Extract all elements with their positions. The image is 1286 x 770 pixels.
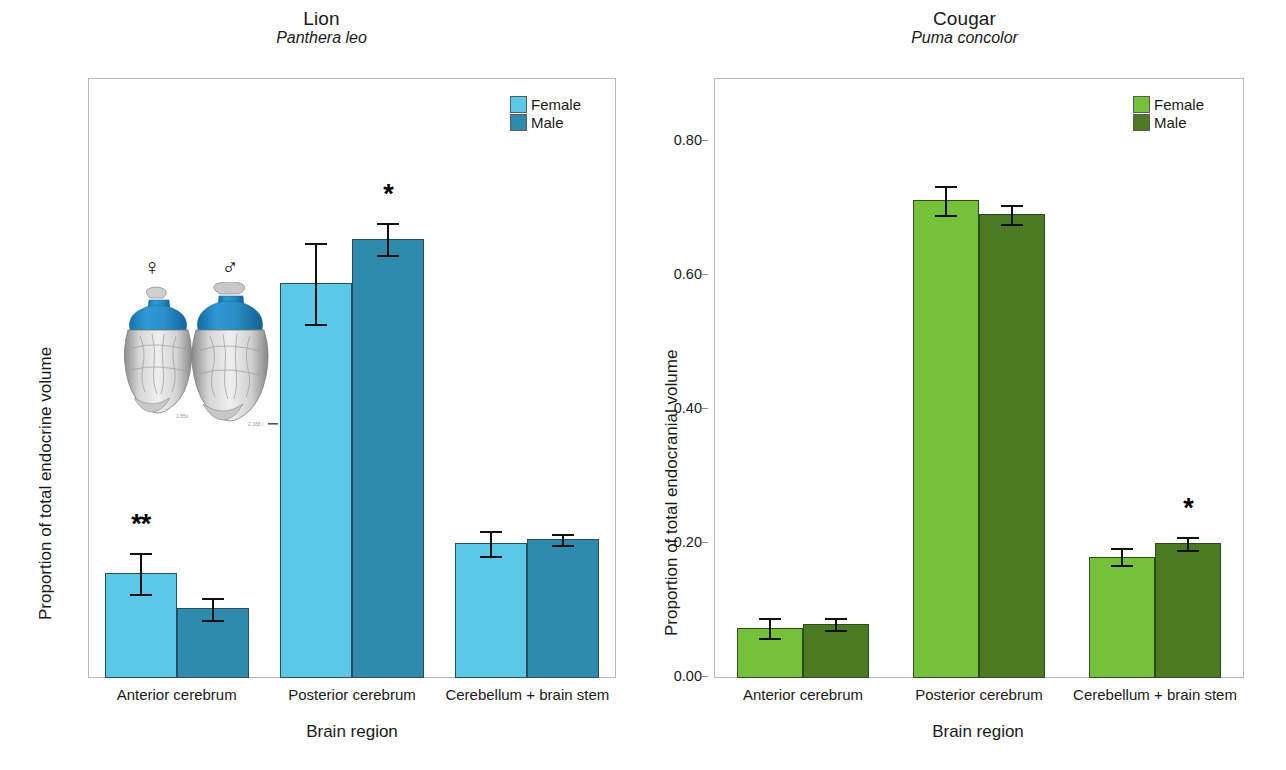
cougar-legend-item-female[interactable]: Female	[1133, 96, 1204, 113]
error-bar-stem	[387, 223, 389, 255]
error-bar-cap	[759, 618, 781, 620]
y-tick-label: 0.20	[650, 534, 702, 550]
cougar-title-common: Cougar	[643, 8, 1286, 29]
male-symbol-icon: ♂	[221, 256, 238, 279]
bar-male-1	[979, 214, 1045, 678]
bar-female-2	[1089, 557, 1155, 678]
error-bar-stem	[945, 186, 947, 215]
error-bar-cap	[305, 243, 327, 245]
significance-marker: *	[383, 181, 393, 208]
legend-swatch-icon	[510, 114, 527, 131]
female-scale-text: 1.85x	[176, 413, 189, 419]
error-bar-cap	[202, 620, 224, 622]
significance-marker: *	[1183, 495, 1193, 522]
male-scale-text: 2.188 /	[248, 421, 264, 427]
error-bar-cap	[1111, 565, 1133, 567]
lion-y-axis-label: Proportion of total endocrine volume	[36, 347, 56, 620]
error-bar-cap	[480, 531, 502, 533]
error-bar-stem	[140, 553, 142, 593]
error-bar-stem	[1011, 205, 1013, 224]
x-tick-label: Anterior cerebrum	[743, 686, 863, 703]
error-bar-cap	[130, 594, 152, 596]
error-bar-cap	[552, 534, 574, 536]
cougar-y-axis-label: Proportion of total endocranial volume	[662, 350, 682, 636]
error-bar-cap	[825, 630, 847, 632]
x-tick-label: Anterior cerebrum	[117, 686, 237, 703]
lion-legend-item-female[interactable]: Female	[510, 96, 581, 113]
error-bar-stem	[212, 598, 214, 621]
lion-x-axis-label: Brain region	[88, 722, 616, 742]
error-bar-cap	[202, 598, 224, 600]
cougar-legend-label-male: Male	[1154, 115, 1187, 130]
lion-title-latin: Panthera leo	[0, 29, 643, 47]
y-tick-mark	[702, 676, 708, 677]
figure-root: Lion Panthera leo Proportion of total en…	[0, 0, 1286, 770]
error-bar-stem	[1121, 548, 1123, 565]
error-bar-cap	[1001, 224, 1023, 226]
significance-marker: **	[131, 511, 150, 538]
y-tick-label: 0.00	[650, 668, 702, 684]
error-bar-cap	[377, 255, 399, 257]
cougar-title-latin: Puma concolor	[643, 29, 1286, 47]
cougar-title-block: Cougar Puma concolor	[643, 8, 1286, 47]
y-tick-label: 0.40	[650, 400, 702, 416]
y-tick-mark	[702, 408, 708, 409]
x-tick-label: Posterior cerebrum	[915, 686, 1043, 703]
error-bar-stem	[1187, 537, 1189, 550]
error-bar-stem	[769, 618, 771, 638]
male-endocast-image: 2.188 /	[190, 282, 380, 450]
error-bar-cap	[935, 186, 957, 188]
error-bar-cap	[480, 556, 502, 558]
y-tick-mark	[702, 140, 708, 141]
error-bar-cap	[825, 618, 847, 620]
cougar-legend-item-male[interactable]: Male	[1133, 114, 1204, 131]
lion-title-block: Lion Panthera leo	[0, 8, 643, 47]
y-tick-label: 0.60	[650, 266, 702, 282]
cougar-legend: Female Male	[1133, 96, 1204, 132]
lion-title-common: Lion	[0, 8, 643, 29]
y-tick-label: 0.80	[650, 132, 702, 148]
error-bar-cap	[1177, 550, 1199, 552]
error-bar-cap	[1111, 548, 1133, 550]
error-bar-cap	[130, 553, 152, 555]
error-bar-stem	[490, 531, 492, 556]
bar-male-2	[1155, 543, 1221, 678]
bar-female-2	[455, 543, 527, 678]
female-symbol-icon: ♀	[143, 256, 160, 279]
lion-legend: Female Male	[510, 96, 581, 132]
lion-legend-item-male[interactable]: Male	[510, 114, 581, 131]
legend-swatch-icon	[1133, 96, 1150, 113]
error-bar-cap	[377, 223, 399, 225]
lion-legend-label-male: Male	[531, 115, 564, 130]
bar-male-2	[527, 539, 599, 678]
error-bar-cap	[1001, 205, 1023, 207]
x-tick-label: Cerebellum + brain stem	[1073, 686, 1237, 703]
lion-legend-label-female: Female	[531, 97, 581, 112]
brain-endocast-inset: ♀ ♂	[118, 256, 308, 446]
x-tick-label: Cerebellum + brain stem	[445, 686, 609, 703]
error-bar-cap	[1177, 537, 1199, 539]
error-bar-cap	[935, 215, 957, 217]
bar-male-0	[803, 624, 869, 678]
legend-swatch-icon	[510, 96, 527, 113]
cougar-legend-label-female: Female	[1154, 97, 1204, 112]
cougar-x-axis-label: Brain region	[714, 722, 1242, 742]
panel-lion: Lion Panthera leo Proportion of total en…	[0, 0, 643, 770]
x-tick-label: Posterior cerebrum	[288, 686, 416, 703]
bar-female-1	[913, 200, 979, 678]
y-tick-mark	[702, 542, 708, 543]
error-bar-cap	[552, 545, 574, 547]
y-tick-mark	[702, 274, 708, 275]
error-bar-cap	[759, 638, 781, 640]
legend-swatch-icon	[1133, 114, 1150, 131]
